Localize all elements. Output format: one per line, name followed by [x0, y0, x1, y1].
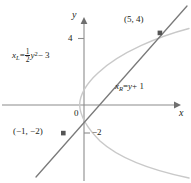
y-tick-label-minus2: −2: [92, 128, 102, 137]
left-curve-fraction: 12: [25, 48, 30, 65]
point-label-upper: (5, 4): [124, 15, 144, 24]
left-curve-equation: xL=12y2− 3: [12, 48, 50, 65]
y-axis-label: y: [72, 10, 76, 20]
intersection-points: [61, 31, 162, 136]
origin-label: 0: [74, 109, 79, 118]
graph-svg: [0, 0, 191, 183]
left-curve-tail: − 3: [38, 50, 50, 60]
right-line-tail: + 1: [132, 81, 144, 91]
x-axis-label: x: [179, 108, 183, 118]
y-tick-label-4: 4: [68, 34, 73, 43]
left-curve-equals: =: [20, 50, 25, 60]
x-axis: [2, 102, 181, 109]
figure-container: y x 0 4 −2 (5, 4) (−1, −2) xL=12y2− 3 xR…: [0, 0, 191, 183]
point-label-lower: (−1, −2): [13, 127, 43, 136]
y-axis: [81, 17, 88, 181]
parabola-curve: [80, 29, 189, 179]
right-line-equation: xR=y+ 1: [115, 82, 144, 92]
fraction-denominator: 2: [25, 56, 30, 64]
line-curve: [36, 6, 187, 177]
